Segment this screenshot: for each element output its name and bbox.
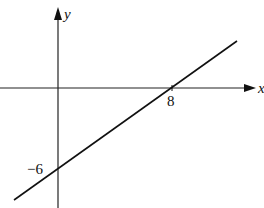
plotted-line (14, 41, 237, 200)
x-axis-arrow-icon (244, 84, 256, 92)
y-axis-arrow-icon (54, 7, 62, 20)
y-axis-label: y (62, 6, 71, 22)
x-axis-label: x (257, 80, 264, 96)
y-intercept-label: −6 (27, 161, 43, 177)
graph: x y 8 −6 (0, 0, 264, 208)
x-intercept-label: 8 (167, 93, 175, 109)
